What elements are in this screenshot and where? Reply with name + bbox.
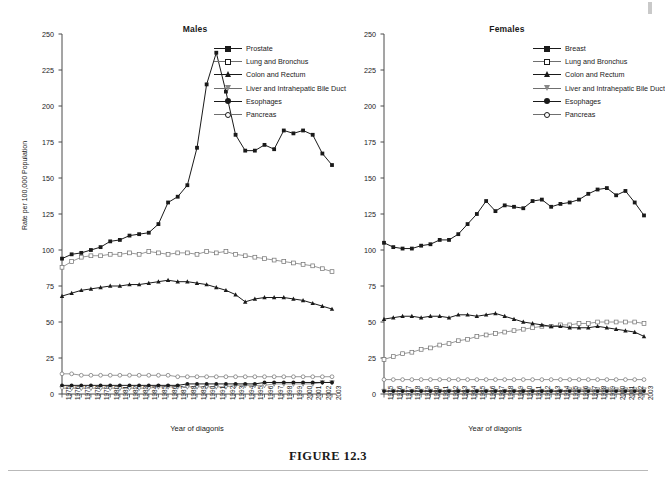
x-tick-label: 1985: [479, 386, 486, 400]
x-tick-label: 1983: [142, 386, 149, 400]
legend-item: Prostate: [214, 42, 346, 55]
y-tick-label: 0: [28, 390, 54, 399]
y-tick-label: 25: [28, 354, 54, 363]
legend-label: Pancreas: [246, 111, 276, 118]
y-tick-label: 175: [28, 138, 54, 147]
x-tick-label: 1984: [470, 386, 477, 400]
y-tick-label: 150: [28, 174, 54, 183]
x-tick-label: 1980: [433, 386, 440, 400]
legend-males: ProstateLung and BronchusColon and Rectu…: [214, 42, 346, 121]
legend-label: Esophages: [246, 98, 282, 105]
x-tick-label: 1994: [248, 386, 255, 400]
y-tick-label: 175: [350, 138, 376, 147]
x-tick-label: 1975: [65, 386, 72, 400]
x-tick-label: 1990: [209, 386, 216, 400]
legend-label: Lung and Bronchus: [565, 58, 627, 65]
x-tick-label: 2002: [325, 386, 332, 400]
legend-marker-icon: [533, 43, 561, 55]
legend-item: Pancreas: [533, 108, 665, 121]
x-tick-label: 1981: [442, 386, 449, 400]
chart-panel-females: Females Year of diagonis 025507510012515…: [348, 0, 656, 440]
x-tick-label: 1975: [387, 386, 394, 400]
legend-item: Lung and Bronchus: [214, 55, 346, 68]
x-tick-label: 2001: [315, 386, 322, 400]
x-tick-label: 1986: [489, 386, 496, 400]
y-tick-label: 75: [350, 282, 376, 291]
legend-marker-icon: [533, 69, 561, 81]
legend-item: Breast: [533, 42, 665, 55]
y-tick-label: 100: [28, 246, 54, 255]
x-tick-label: 1983: [461, 386, 468, 400]
x-tick-label: 1999: [296, 386, 303, 400]
x-tick-label: 1980: [113, 386, 120, 400]
legend-item: Esophages: [533, 95, 665, 108]
legend-label: Lung and Bronchus: [246, 58, 308, 65]
legend-marker-icon: [533, 56, 561, 68]
legend-marker-icon: [214, 69, 242, 81]
x-tick-label: 1989: [517, 386, 524, 400]
x-tick-label: 1984: [151, 386, 158, 400]
y-tick-label: 200: [28, 102, 54, 111]
x-tick-label: 1988: [507, 386, 514, 400]
legend-marker-icon: [533, 109, 561, 121]
legend-females: BreastLung and BronchusColon and RectumL…: [533, 42, 665, 121]
x-tick-label: 1998: [600, 386, 607, 400]
y-tick-label: 125: [28, 210, 54, 219]
legend-item: Colon and Rectum: [533, 68, 665, 81]
legend-item: Pancreas: [214, 108, 346, 121]
y-tick-label: 225: [350, 66, 376, 75]
x-tick-label: 1993: [238, 386, 245, 400]
x-tick-label: 2003: [335, 386, 342, 400]
figure-caption: FIGURE 12.3: [0, 449, 656, 464]
legend-label: Prostate: [246, 45, 273, 52]
legend-marker-icon: [533, 95, 561, 107]
x-tick-label: 1981: [122, 386, 129, 400]
x-tick-label: 1976: [396, 386, 403, 400]
x-tick-label: 1979: [103, 386, 110, 400]
legend-item: Esophages: [214, 95, 346, 108]
y-tick-label: 150: [350, 174, 376, 183]
legend-marker-icon: [533, 82, 561, 94]
x-tick-label: 1977: [84, 386, 91, 400]
y-tick-label: 25: [350, 354, 376, 363]
x-tick-label: 1993: [554, 386, 561, 400]
legend-label: Pancreas: [565, 111, 595, 118]
legend-item: Liver and Intrahepatic Bile Duct: [533, 82, 665, 95]
x-tick-label: 1998: [286, 386, 293, 400]
y-tick-label: 75: [28, 282, 54, 291]
horizontal-rule: [8, 470, 648, 471]
x-tick-label: 1978: [414, 386, 421, 400]
y-tick-label: 0: [350, 390, 376, 399]
x-tick-label: 1996: [267, 386, 274, 400]
y-tick-label: 100: [350, 246, 376, 255]
x-tick-label: 1979: [424, 386, 431, 400]
x-tick-label: 1996: [582, 386, 589, 400]
x-tick-label: 1995: [572, 386, 579, 400]
x-tick-label: 1985: [161, 386, 168, 400]
legend-label: Liver and Intrahepatic Bile Duct: [565, 85, 665, 92]
x-tick-label: 1999: [609, 386, 616, 400]
y-tick-label: 50: [350, 318, 376, 327]
x-tick-label: 1986: [171, 386, 178, 400]
legend-label: Breast: [565, 45, 586, 52]
x-tick-label: 1991: [535, 386, 542, 400]
legend-label: Liver and Intrahepatic Bile Duct: [246, 85, 346, 92]
legend-label: Colon and Rectum: [565, 71, 625, 78]
x-tick-label: 1992: [544, 386, 551, 400]
x-tick-label: 1989: [200, 386, 207, 400]
legend-label: Esophages: [565, 98, 601, 105]
x-tick-label: 1982: [132, 386, 139, 400]
x-tick-label: 1997: [591, 386, 598, 400]
x-tick-label: 1976: [74, 386, 81, 400]
y-tick-label: 250: [350, 30, 376, 39]
y-tick-label: 200: [350, 102, 376, 111]
x-tick-label: 2002: [637, 386, 644, 400]
x-tick-label: 1990: [526, 386, 533, 400]
x-tick-label: 2001: [628, 386, 635, 400]
x-tick-label: 1988: [190, 386, 197, 400]
x-tick-label: 2003: [647, 386, 654, 400]
x-tick-label: 1997: [277, 386, 284, 400]
legend-item: Liver and Intrahepatic Bile Duct: [214, 82, 346, 95]
x-tick-label: 1992: [229, 386, 236, 400]
